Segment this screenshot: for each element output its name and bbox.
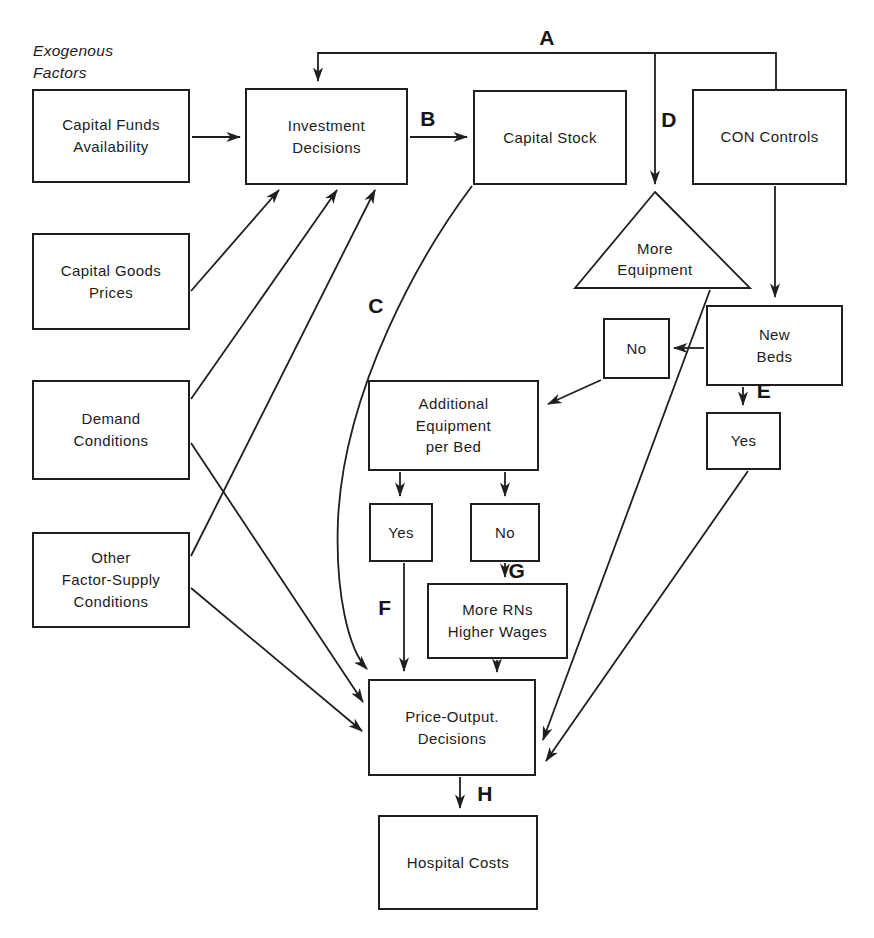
node-hospital-costs: Hospital Costs <box>378 815 538 910</box>
edge-label-d: D <box>661 108 677 132</box>
edge-yes-new-beds-to-price-output <box>546 471 748 761</box>
node-demand-conditions: Demand Conditions <box>32 380 190 480</box>
edge-no-to-additional-equipment <box>548 380 601 404</box>
edge-label-f: F <box>378 596 391 620</box>
node-capital-stock: Capital Stock <box>473 90 627 185</box>
edge-demand-to-investment <box>191 190 337 399</box>
edge-con-to-investment <box>318 53 776 89</box>
node-price-output-decisions: Price-Output. Decisions <box>368 679 536 776</box>
node-new-beds: New Beds <box>706 305 843 386</box>
edge-label-c: C <box>368 294 384 318</box>
node-additional-equipment-per-bed: Additional Equipment per Bed <box>368 380 539 471</box>
node-other-factor-supply-conditions: Other Factor-Supply Conditions <box>32 532 190 628</box>
edge-label-g: G <box>509 559 526 583</box>
edge-label-h: H <box>477 782 493 806</box>
node-investment-decisions: Investment Decisions <box>245 88 408 185</box>
node-more-rns-higher-wages: More RNs Higher Wages <box>427 583 568 659</box>
node-capital-funds-availability: Capital Funds Availability <box>32 89 190 183</box>
edge-demand-to-price-output <box>191 443 363 702</box>
node-yes-new-beds: Yes <box>706 412 781 470</box>
node-more-equipment: More Equipment <box>577 222 733 280</box>
edge-capital-goods-to-investment <box>191 190 279 291</box>
edge-other-factor-supply-to-investment <box>191 190 375 556</box>
edge-other-factor-supply-to-price-output <box>191 588 362 731</box>
flowchart-canvas: Exogenous Factors Capital Funds Availabi… <box>0 0 874 938</box>
exogenous-factors-label: Exogenous Factors <box>33 40 113 83</box>
node-no-additional-equipment: No <box>470 503 540 562</box>
node-yes-additional-equipment: Yes <box>369 503 433 562</box>
node-no-new-beds: No <box>603 318 670 379</box>
edge-label-a: A <box>539 26 555 50</box>
node-capital-goods-prices: Capital Goods Prices <box>32 233 190 330</box>
node-con-controls: CON Controls <box>692 89 847 185</box>
edge-label-e: E <box>757 379 772 403</box>
edge-label-b: B <box>420 107 436 131</box>
